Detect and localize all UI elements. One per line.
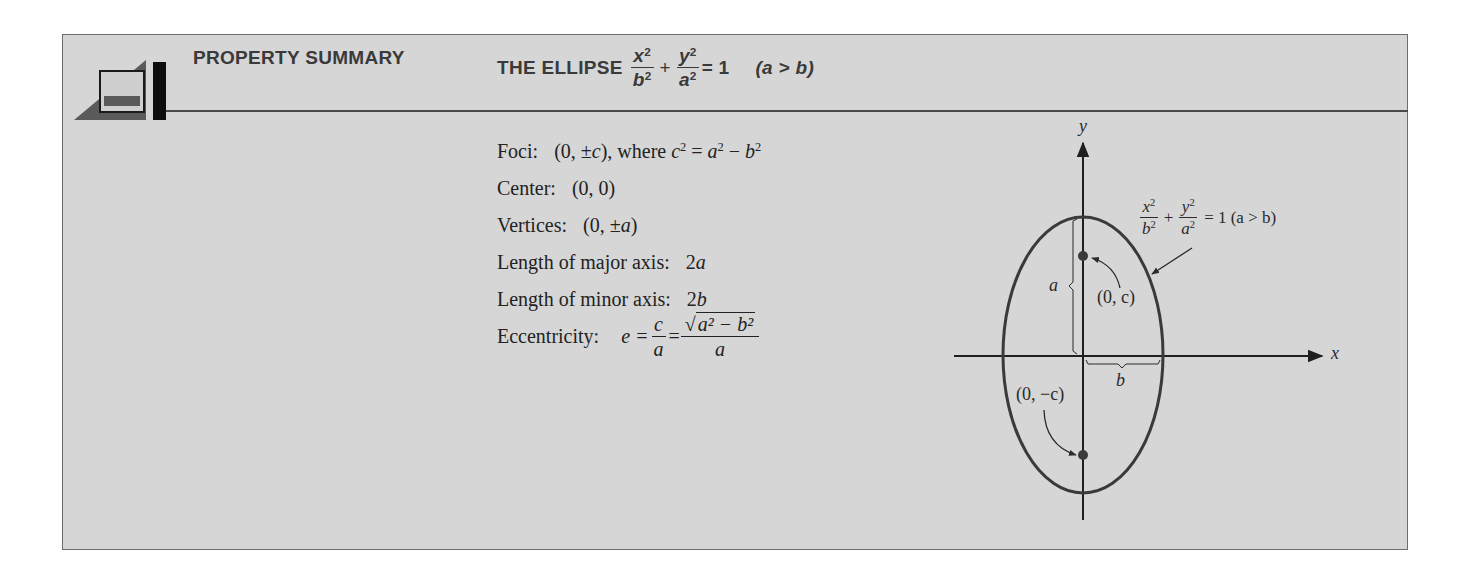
y-axis-label: y	[1079, 116, 1087, 137]
property-foci: Foci:(0, ±c), where c2 = a2 − b2	[497, 140, 761, 163]
upper-focus-label: (0, c)	[1097, 287, 1135, 308]
title-equals: = 1	[702, 57, 730, 79]
semi-major-label: a	[1049, 275, 1058, 296]
title-prefix: THE ELLIPSE	[497, 57, 623, 79]
property-major-axis: Length of major axis:2a	[497, 251, 706, 274]
property-eccentricity: Eccentricity: e = c a = √a² − b² a	[497, 314, 760, 359]
property-center: Center:(0, 0)	[497, 177, 615, 200]
lower-focus-label: (0, −c)	[1016, 384, 1064, 405]
property-summary-icon	[74, 60, 168, 122]
x-axis-label: x	[1331, 343, 1339, 364]
title-fraction-x: x2 b2	[631, 46, 654, 89]
ecc-fraction-1: c a	[652, 314, 666, 359]
ecc-fraction-2: √a² − b² a	[683, 314, 757, 359]
page-title: THE ELLIPSE x2 b2 + y2 a2 = 1 (a > b)	[497, 46, 814, 89]
ellipse-equation-label: x2 b2 + y2 a2 = 1 (a > b)	[1137, 198, 1276, 237]
property-minor-axis: Length of minor axis:2b	[497, 288, 707, 311]
header-divider	[166, 110, 1408, 112]
property-vertices: Vertices:(0, ±a)	[497, 214, 637, 237]
section-label: PROPERTY SUMMARY	[193, 47, 405, 69]
title-condition: (a > b)	[755, 57, 814, 79]
title-fraction-y: y2 a2	[677, 46, 699, 89]
semi-minor-label: b	[1116, 370, 1125, 391]
